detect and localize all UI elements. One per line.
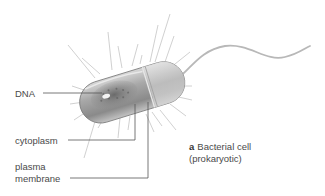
cytoplasm-label: cytoplasm: [15, 135, 58, 146]
figure-caption: aBacterial cell (prokaryotic): [189, 141, 251, 165]
bacterial-cell-figure: DNA cytoplasm plasma membrane aBacterial…: [0, 0, 325, 196]
flagellum: [178, 46, 310, 78]
caption-subtitle: (prokaryotic): [189, 153, 251, 165]
caption-letter: a: [189, 141, 194, 152]
dna-label: DNA: [15, 88, 35, 99]
plasma-membrane-label-line1: plasma: [15, 161, 46, 172]
bacterial-cell-illustration: [0, 0, 325, 196]
caption-title: Bacterial cell: [197, 141, 251, 152]
plasma-membrane-label-line2: membrane: [15, 173, 60, 184]
